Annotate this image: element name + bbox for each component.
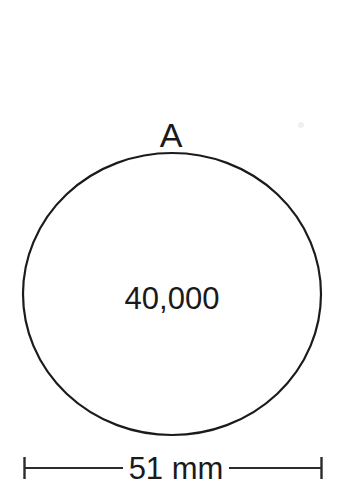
circle-label-a: A	[160, 116, 183, 154]
circle-value-label: 40,000	[125, 281, 220, 316]
circle-diagram-svg: A 40,000 51 mm	[0, 0, 348, 491]
scan-speck	[298, 122, 304, 128]
dimension-label: 51 mm	[129, 451, 224, 486]
diagram-canvas: A 40,000 51 mm	[0, 0, 348, 491]
